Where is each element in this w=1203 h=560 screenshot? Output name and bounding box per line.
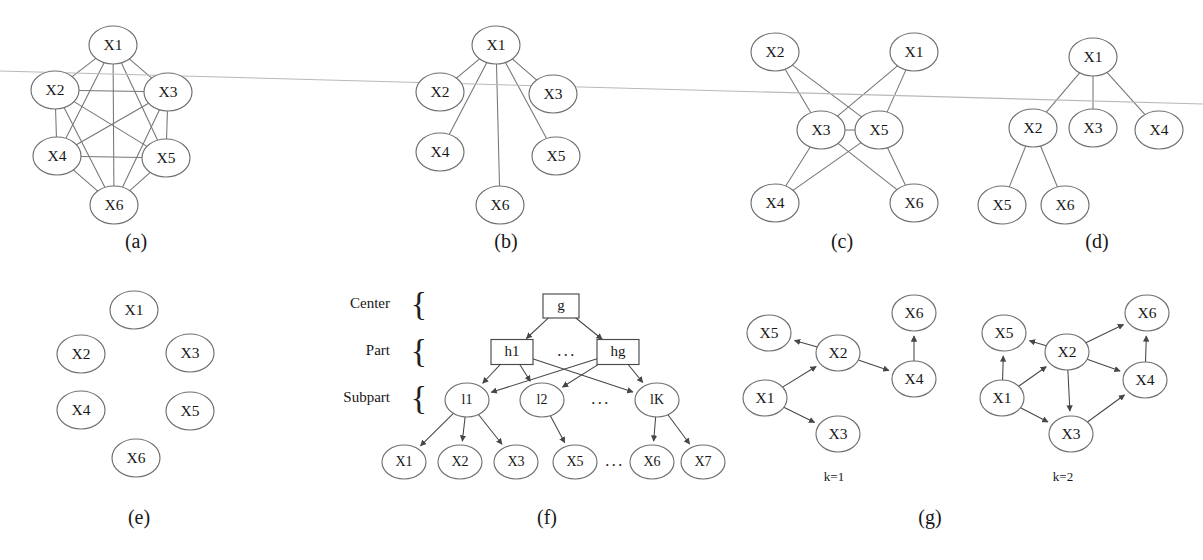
node-label-d-X6: X6 <box>1056 196 1075 213</box>
node-label-b-X6: X6 <box>491 196 510 213</box>
node-label-g1-X6: X6 <box>1138 304 1157 321</box>
edge-b-X1-X2 <box>456 59 479 78</box>
panel-caption-d: (d) <box>1085 230 1108 253</box>
nodes-layer <box>31 26 1183 479</box>
subfigure-caption-k1: k=1 <box>824 469 844 484</box>
node-label-c-X4: X4 <box>766 194 785 211</box>
node-label-g1-X5: X5 <box>995 324 1014 341</box>
hierarchy-edge-h1-l1 <box>483 363 502 383</box>
edge-a-X3-X5 <box>167 111 168 139</box>
node-label-f-X3: X3 <box>507 454 524 469</box>
node-label-f-X5: X5 <box>566 454 583 469</box>
node-label-b-X1: X1 <box>487 36 506 53</box>
panel-caption-e: (e) <box>128 506 150 529</box>
node-label-a-X6: X6 <box>105 196 124 213</box>
directed-edge-g1-X3-X4 <box>1087 395 1124 422</box>
edge-d-X2-X6 <box>1041 146 1058 187</box>
node-label-b-X5: X5 <box>547 147 566 164</box>
node-label-a-X5: X5 <box>157 149 176 166</box>
directed-edge-g1-X2-X3 <box>1068 370 1070 411</box>
text-layer: X1X2X3X4X5X6X1X2X3X4X5X6X2X1X3X5X4X6X1X2… <box>46 36 1169 529</box>
node-label-e-X4: X4 <box>72 401 91 418</box>
node-label-b-X2: X2 <box>431 83 450 100</box>
node-label-g1-X1: X1 <box>993 389 1012 406</box>
ellipsis-mark-0: ... <box>557 342 577 359</box>
hierarchy-edge-lK-X6 <box>654 417 656 441</box>
tier-brace-subpart: { <box>411 379 427 416</box>
directed-edge-g1-X4-X6 <box>1146 336 1147 362</box>
node-label-d-X5: X5 <box>993 196 1012 213</box>
edge-a-X1-X6 <box>113 64 114 186</box>
directed-edge-g1-X1-X5 <box>1003 356 1004 380</box>
edge-a-X2-X4 <box>56 109 57 137</box>
node-label-a-X3: X3 <box>159 83 178 100</box>
ellipsis-mark-2: ... <box>605 452 625 469</box>
node-label-a-X4: X4 <box>48 147 67 164</box>
node-label-f-X2: X2 <box>451 454 468 469</box>
node-label-g0-X1: X1 <box>756 389 775 406</box>
edge-d-X2-X5 <box>1009 146 1025 187</box>
node-label-d-X3: X3 <box>1084 119 1103 136</box>
figure-root: X1X2X3X4X5X6X1X2X3X4X5X6X2X1X3X5X4X6X1X2… <box>0 0 1203 560</box>
node-label-g0-X6: X6 <box>905 304 924 321</box>
edge-b-X1-X3 <box>512 59 536 80</box>
edge-c-X6-X5 <box>888 148 906 185</box>
ellipsis-mark-1: ... <box>591 390 611 407</box>
edge-c-X4-X3 <box>786 147 811 186</box>
node-label-e-X6: X6 <box>127 449 146 466</box>
box-node-label-h1: h1 <box>505 343 520 359</box>
edge-a-X4-X6 <box>73 170 97 191</box>
node-label-c-X3: X3 <box>812 121 831 138</box>
node-label-g1-X3: X3 <box>1062 425 1081 442</box>
tier-label-part: Part <box>366 342 391 358</box>
node-label-e-X5: X5 <box>181 402 200 419</box>
node-label-f-X1: X1 <box>395 454 412 469</box>
box-node-label-g: g <box>557 297 565 313</box>
tier-label-subpart: Subpart <box>343 389 390 405</box>
edge-a-X5-X6 <box>130 172 150 190</box>
hierarchy-edge-lK-X7 <box>668 415 690 444</box>
hierarchy-edge-l1-X1 <box>420 413 453 445</box>
node-label-a-X2: X2 <box>46 81 65 98</box>
hierarchy-edge-g-h1 <box>526 316 550 339</box>
directed-edge-g1-X1-X2 <box>1019 367 1047 387</box>
node-label-d-X2: X2 <box>1024 119 1043 136</box>
directed-edge-g0-X1-X3 <box>784 407 815 422</box>
node-label-g1-X2: X2 <box>1058 343 1077 360</box>
hierarchy-edge-g-hg <box>572 315 602 339</box>
node-label-c-X6: X6 <box>905 194 924 211</box>
hierarchy-edge-hg-lK <box>627 363 643 382</box>
node-label-c-X2: X2 <box>766 43 785 60</box>
node-label-d-X4: X4 <box>1150 121 1169 138</box>
node-label-g1-X4: X4 <box>1136 371 1155 388</box>
hierarchy-edge-l1-X3 <box>478 415 502 445</box>
tier-brace-part: { <box>411 332 427 369</box>
panel-caption-a: (a) <box>125 230 147 253</box>
node-label-g0-X5: X5 <box>760 324 779 341</box>
hierarchy-edge-h1-l2 <box>519 364 530 382</box>
edge-c-X1-X5 <box>887 70 906 112</box>
node-label-a-X1: X1 <box>104 36 123 53</box>
directed-edge-g1-X2-X4 <box>1087 359 1120 371</box>
node-label-f-X6: X6 <box>643 454 660 469</box>
node-label-g0-X3: X3 <box>829 425 848 442</box>
edge-d-X1-X4 <box>1107 72 1145 114</box>
panel-caption-c: (c) <box>831 230 853 253</box>
directed-edge-g1-X1-X3 <box>1021 408 1048 422</box>
edge-c-X2-X5 <box>792 65 861 117</box>
directed-edge-g0-X2-X4 <box>858 360 889 370</box>
edge-b-X1-X6 <box>496 64 499 186</box>
hierarchy-edge-l2-X5 <box>550 416 564 443</box>
panel-caption-b: (b) <box>494 230 517 253</box>
node-label-c-X1: X1 <box>905 43 924 60</box>
hierarchy-edge-l1-X2 <box>462 417 465 441</box>
node-label-f-l2: l2 <box>537 392 548 407</box>
box-node-label-hg: hg <box>611 343 627 359</box>
node-label-e-X1: X1 <box>125 301 144 318</box>
node-label-d-X1: X1 <box>1084 48 1103 65</box>
tier-label-center: Center <box>350 295 390 311</box>
panel-caption-f: (f) <box>537 506 557 529</box>
subfigure-caption-k2: k=2 <box>1053 469 1073 484</box>
node-label-g0-X2: X2 <box>829 344 848 361</box>
node-label-g0-X4: X4 <box>905 370 924 387</box>
